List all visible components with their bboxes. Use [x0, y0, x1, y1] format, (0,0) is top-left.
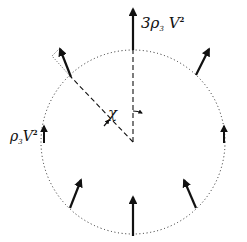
arrow-upper-left — [60, 49, 71, 77]
top-flux-label: 3ρ3 V2 — [141, 16, 184, 33]
angle-chi-label: χ — [108, 106, 117, 121]
exponent: 2 — [179, 15, 184, 24]
exponent: 2 — [33, 128, 38, 137]
arrow-lower-right — [184, 180, 196, 208]
velocity-symbol: V — [169, 14, 180, 32]
coefficient: 3 — [141, 14, 151, 32]
momentum-flux-diagram — [0, 0, 247, 242]
arrow-upper-right — [196, 49, 209, 75]
flux-arrows — [44, 9, 224, 236]
rho-symbol: ρ — [10, 128, 18, 144]
arrow-lower-left — [70, 180, 81, 208]
subscript: 3 — [159, 25, 163, 33]
slanted-radius-dashed — [71, 77, 133, 142]
angle-tick-right — [133, 111, 142, 113]
velocity-symbol: V — [23, 128, 33, 144]
side-flux-label: ρ3V2 — [10, 129, 38, 146]
